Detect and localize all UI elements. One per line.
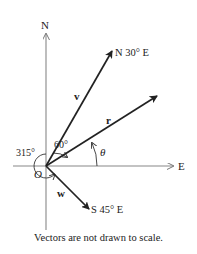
angle-label-315: 315°	[16, 147, 35, 158]
angle-label-theta: θ	[100, 146, 106, 158]
east-label: E	[178, 160, 185, 172]
caption: Vectors are not drawn to scale.	[0, 232, 197, 243]
north-label: N	[41, 19, 49, 31]
vector-r-label: r	[106, 114, 111, 126]
origin-label: O	[34, 168, 42, 180]
vector-w-label: w	[57, 187, 65, 199]
vector-w-bearing: S 45° E	[91, 204, 123, 215]
vector-w	[46, 166, 89, 209]
vector-v-label: v	[74, 90, 80, 102]
angle-arc-theta	[92, 143, 97, 166]
vector-v-bearing: N 30° E	[115, 47, 149, 58]
vector-diagram: N E O 315° 60° θ v N 30° E r	[0, 0, 197, 254]
